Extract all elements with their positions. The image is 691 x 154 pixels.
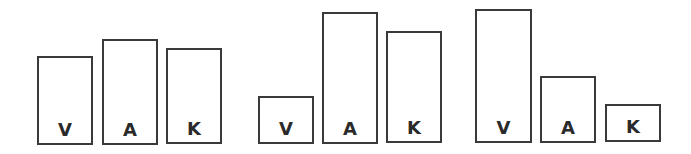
bar-label: K xyxy=(607,118,659,136)
bar-label: V xyxy=(477,119,530,137)
bar-v: V xyxy=(37,56,93,145)
bar-label: A xyxy=(104,121,156,139)
bar-label: K xyxy=(168,120,220,138)
bar-v: V xyxy=(258,96,314,144)
bar-a: A xyxy=(322,12,378,144)
bar-k: K xyxy=(386,31,442,143)
bar-k: K xyxy=(605,104,661,142)
bar-label: A xyxy=(324,120,376,138)
bar-label: V xyxy=(39,121,91,139)
bar-label: A xyxy=(542,119,594,137)
bar-a: A xyxy=(102,39,158,145)
bar-k: K xyxy=(166,48,222,144)
bar-a: A xyxy=(540,76,596,143)
bar-v: V xyxy=(475,9,532,143)
bar-label: K xyxy=(388,119,440,137)
bar-label: V xyxy=(260,120,312,138)
